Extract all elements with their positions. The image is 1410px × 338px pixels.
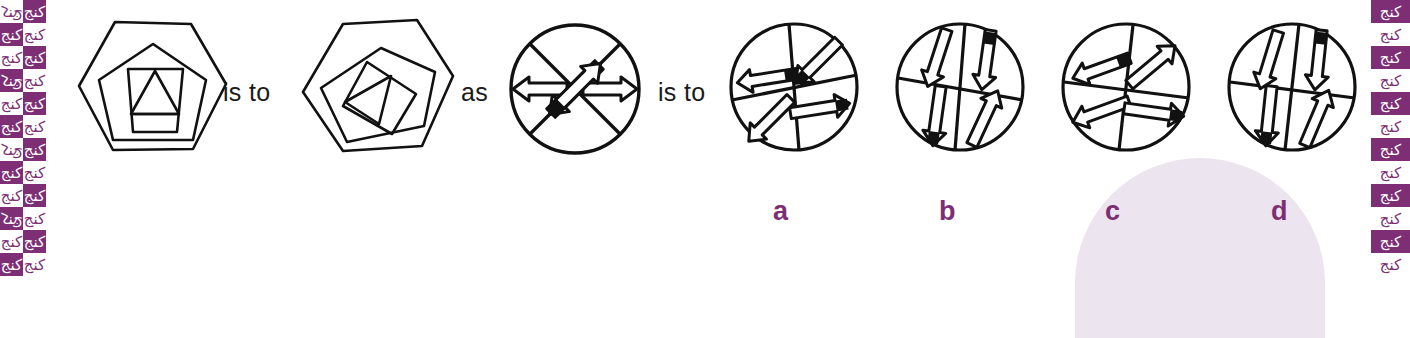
option-b-figure[interactable] bbox=[893, 20, 1028, 155]
nested-polygons-rotated-svg bbox=[295, 14, 460, 159]
arrow-down bbox=[921, 85, 952, 148]
border-motif-glyph: کنج bbox=[1380, 188, 1401, 203]
divider-vertical bbox=[1285, 24, 1299, 150]
border-motif-glyph: کنج bbox=[24, 119, 45, 134]
border-motif-glyph: کنج bbox=[1, 142, 22, 157]
arrow-up bbox=[1304, 29, 1333, 91]
border-cell: کنج bbox=[0, 69, 23, 92]
border-motif-glyph: کنج bbox=[24, 211, 45, 226]
border-column-2: کنجکنجکنجکنجکنجکنجکنجکنجکنجکنجکنجکنج bbox=[23, 0, 46, 245]
border-motif-glyph: کنج bbox=[1, 96, 22, 111]
border-motif-glyph: کنج bbox=[1, 165, 22, 180]
arrow-down-left bbox=[740, 90, 799, 149]
analogy-row: is to as bbox=[55, 0, 1365, 245]
decorative-border-right: کنجکنجکنجکنجکنجکنجکنجکنجکنجکنجکنجکنج bbox=[1371, 0, 1410, 245]
border-motif-glyph: کنج bbox=[1380, 50, 1401, 65]
border-motif-glyph: کنج bbox=[1, 257, 22, 272]
border-cell: کنج bbox=[23, 138, 46, 161]
border-cell: کنج bbox=[1371, 0, 1410, 23]
border-cell: کنج bbox=[23, 69, 46, 92]
stimulus-figure-3 bbox=[505, 22, 645, 157]
border-cell: کنج bbox=[1371, 46, 1410, 69]
option-a-label[interactable]: a bbox=[773, 196, 788, 227]
border-column-1: کنجکنجکنجکنجکنجکنجکنجکنجکنجکنجکنجکنج bbox=[0, 0, 23, 245]
border-motif-glyph: کنج bbox=[1, 27, 22, 42]
connector-is-to-2: is to bbox=[658, 78, 705, 107]
border-motif-glyph: کنج bbox=[1380, 27, 1401, 42]
border-cell: کنج bbox=[0, 23, 23, 46]
border-motif-glyph: کنج bbox=[24, 165, 45, 180]
border-cell: کنج bbox=[0, 207, 23, 230]
option-c-svg[interactable] bbox=[1059, 20, 1194, 155]
arrow-down bbox=[1254, 85, 1283, 147]
border-cell: کنج bbox=[1371, 230, 1410, 253]
option-c-label[interactable]: c bbox=[1105, 196, 1120, 227]
border-cell: کنج bbox=[1371, 207, 1410, 230]
border-motif-glyph: کنج bbox=[24, 27, 45, 42]
border-cell: کنج bbox=[23, 161, 46, 184]
triangle-outline bbox=[345, 76, 391, 124]
border-motif-glyph: کنج bbox=[1380, 119, 1401, 134]
arrow-circle-question-svg bbox=[505, 22, 645, 157]
border-motif-glyph: کنج bbox=[1, 234, 22, 249]
border-cell: کنج bbox=[1371, 184, 1410, 207]
stimulus-figure-1 bbox=[73, 14, 233, 159]
triangle-outline bbox=[131, 71, 179, 114]
border-cell: کنج bbox=[0, 161, 23, 184]
border-motif-glyph: کنج bbox=[24, 257, 45, 272]
border-cell: کنج bbox=[0, 230, 23, 253]
border-cell: کنج bbox=[23, 115, 46, 138]
border-cell: کنج bbox=[1371, 138, 1410, 161]
border-motif-glyph: کنج bbox=[1380, 211, 1401, 226]
arrow-up-left bbox=[1250, 28, 1290, 92]
border-cell: کنج bbox=[23, 46, 46, 69]
border-cell: کنج bbox=[1371, 92, 1410, 115]
border-motif-glyph: کنج bbox=[1380, 96, 1401, 111]
border-cell: کنج bbox=[1371, 115, 1410, 138]
border-cell: کنج bbox=[23, 184, 46, 207]
border-motif-glyph: کنج bbox=[1380, 73, 1401, 88]
border-cell: کنج bbox=[23, 207, 46, 230]
border-cell: کنج bbox=[1371, 23, 1410, 46]
border-motif-glyph: کنج bbox=[24, 96, 45, 111]
border-cell: کنج bbox=[0, 138, 23, 161]
border-motif-glyph: کنج bbox=[24, 188, 45, 203]
decorative-border-left: کنجکنجکنجکنجکنجکنجکنجکنجکنجکنجکنجکنج کنج… bbox=[0, 0, 46, 245]
connector-is-to-1: is to bbox=[223, 78, 270, 107]
border-cell: کنج bbox=[1371, 69, 1410, 92]
border-cell: کنج bbox=[0, 46, 23, 69]
border-column-1: کنجکنجکنجکنجکنجکنجکنجکنجکنجکنجکنجکنج bbox=[1371, 0, 1410, 245]
option-a-svg[interactable] bbox=[727, 20, 862, 155]
border-motif-glyph: کنج bbox=[24, 142, 45, 157]
option-b-svg[interactable] bbox=[893, 20, 1028, 155]
option-d-figure[interactable] bbox=[1225, 20, 1360, 155]
border-motif-glyph: کنج bbox=[1, 50, 22, 65]
border-cell: کنج bbox=[1371, 253, 1410, 276]
border-motif-glyph: کنج bbox=[1, 188, 22, 203]
border-motif-glyph: کنج bbox=[1380, 4, 1401, 19]
option-b-label[interactable]: b bbox=[939, 196, 956, 227]
border-motif-glyph: کنج bbox=[24, 234, 45, 249]
connector-as: as bbox=[461, 78, 488, 107]
trapezium-outline bbox=[128, 69, 183, 132]
border-cell: کنج bbox=[0, 115, 23, 138]
border-cell: کنج bbox=[23, 230, 46, 253]
border-cell: کنج bbox=[1371, 161, 1410, 184]
border-cell: کنج bbox=[23, 253, 46, 276]
border-cell: کنج bbox=[23, 23, 46, 46]
option-d-label[interactable]: d bbox=[1271, 196, 1288, 227]
border-motif-glyph: کنج bbox=[24, 73, 45, 88]
stimulus-figure-2 bbox=[295, 14, 460, 159]
border-motif-glyph: کنج bbox=[24, 4, 45, 19]
option-c-figure[interactable] bbox=[1059, 20, 1194, 155]
pentagon-outline bbox=[321, 48, 435, 142]
pentagon-outline bbox=[99, 44, 206, 140]
border-cell: کنج bbox=[0, 92, 23, 115]
option-d-svg[interactable] bbox=[1225, 20, 1360, 155]
border-cell: کنج bbox=[0, 0, 23, 23]
border-motif-glyph: کنج bbox=[1380, 257, 1401, 272]
border-motif-glyph: کنج bbox=[1380, 142, 1401, 157]
option-a-figure[interactable] bbox=[727, 20, 862, 155]
border-motif-glyph: کنج bbox=[1, 119, 22, 134]
